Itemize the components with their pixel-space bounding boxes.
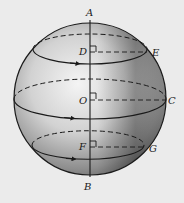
label-G: G	[149, 143, 157, 154]
label-A: A	[85, 7, 93, 18]
label-C: C	[168, 95, 176, 106]
label-B: B	[83, 181, 91, 192]
sphere-diagram: A D E O C F G B	[0, 0, 184, 203]
label-D: D	[78, 46, 87, 57]
label-O: O	[79, 95, 87, 106]
arrow-lower	[66, 159, 74, 160]
label-F: F	[78, 141, 87, 152]
label-E: E	[151, 47, 160, 58]
arrow-upper	[70, 63, 78, 64]
